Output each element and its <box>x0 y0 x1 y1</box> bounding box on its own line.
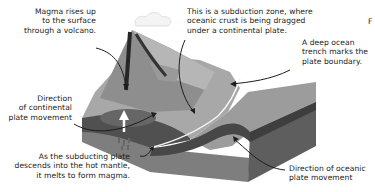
label-magma-rises: Magma rises up to the surface through a … <box>12 7 96 35</box>
label-subduction-zone: This is a subduction zone, where oceanic… <box>187 7 322 35</box>
label-edge-fragment: F <box>368 17 375 26</box>
label-subducting-melts: As the subducting plate descends into th… <box>0 152 130 180</box>
label-oceanic-direction: Direction of oceanic plate movement <box>289 164 375 183</box>
label-continental-direction: Direction of continental plate movement <box>0 94 72 122</box>
label-trench: A deep ocean trench marks the plate boun… <box>302 38 375 66</box>
smoke-cloud-icon <box>135 12 171 26</box>
arrow-trench <box>232 70 290 84</box>
